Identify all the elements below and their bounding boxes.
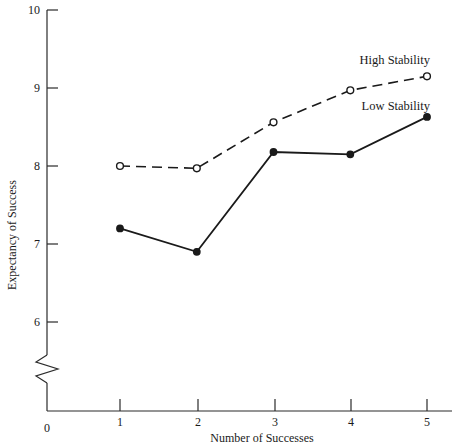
data-point-low-stability-4 [347, 151, 353, 157]
x-tick-label-3: 3 [272, 415, 278, 429]
data-point-high-stability-3 [270, 119, 277, 126]
y-axis-title: Expectancy of Success [5, 180, 19, 290]
x-axis-group: 1 2 3 4 5 Number of Successes [47, 399, 452, 444]
y-axis-break-icon [36, 355, 58, 383]
y-tick-label-6: 6 [34, 315, 40, 329]
chart-canvas: 10 9 8 7 6 0 Expectancy of Success 1 2 3… [0, 0, 455, 444]
x-tick-label-1: 1 [117, 415, 123, 429]
y-tick-label-10: 10 [28, 3, 40, 17]
x-tick-label-2: 2 [195, 415, 201, 429]
series-label-high-stability: High Stability [360, 53, 431, 67]
y-tick-label-7: 7 [34, 237, 40, 251]
y-tick-label-0: 0 [44, 421, 50, 435]
x-tick-label-4: 4 [348, 415, 354, 429]
data-point-high-stability-4 [347, 87, 354, 94]
data-point-low-stability-2 [194, 249, 200, 255]
data-point-high-stability-2 [193, 165, 200, 172]
x-axis-title: Number of Successes [210, 431, 314, 444]
y-axis-group: 10 9 8 7 6 0 Expectancy of Success [5, 3, 58, 435]
line-chart: 10 9 8 7 6 0 Expectancy of Success 1 2 3… [0, 0, 455, 444]
data-point-low-stability-1 [117, 225, 123, 231]
data-point-low-stability-5 [424, 114, 430, 120]
data-point-high-stability-1 [117, 163, 124, 170]
series-label-low-stability: Low Stability [362, 99, 431, 113]
y-tick-label-8: 8 [34, 159, 40, 173]
data-point-high-stability-5 [424, 73, 431, 80]
data-point-low-stability-3 [270, 149, 276, 155]
x-tick-label-5: 5 [424, 415, 430, 429]
y-tick-label-9: 9 [34, 81, 40, 95]
series-line-low-stability [120, 117, 427, 252]
